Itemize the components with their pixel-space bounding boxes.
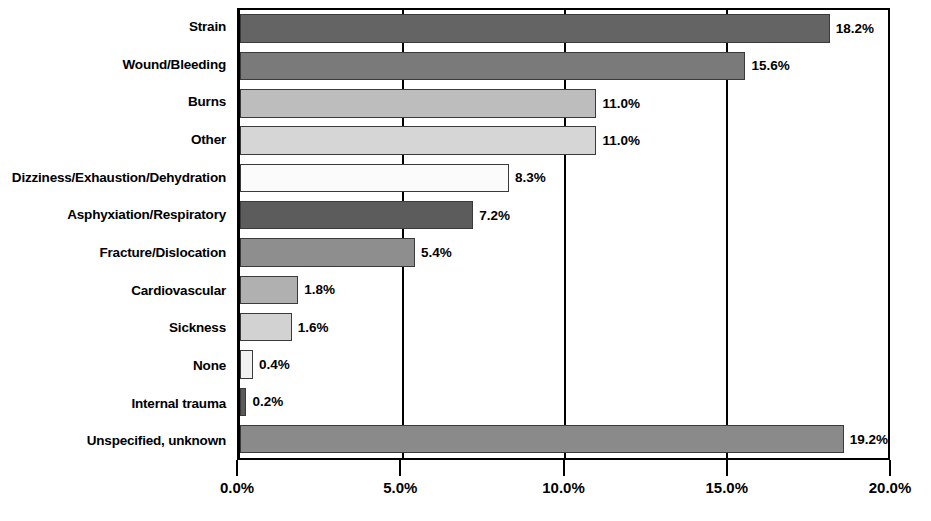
category-label: Asphyxiation/Respiratory (0, 196, 232, 234)
axis-tick (726, 460, 728, 476)
category-label-text: Burns (188, 95, 226, 109)
bar (240, 89, 596, 117)
bar (240, 164, 509, 192)
bar-value-label: 0.2% (252, 395, 283, 409)
axis-tick (563, 460, 565, 476)
bar-value-label: 7.2% (479, 209, 510, 223)
category-label-text: Fracture/Dislocation (99, 246, 226, 260)
bar (240, 238, 415, 266)
bar-value-label: 8.3% (515, 171, 546, 185)
category-label: Other (0, 121, 232, 159)
category-label: None (0, 347, 232, 385)
axis-tick-label: 10.0% (542, 480, 585, 495)
bar (240, 126, 596, 154)
category-label-text: Wound/Bleeding (123, 58, 226, 72)
bar-row: 18.2% (240, 10, 888, 47)
category-label: Wound/Bleeding (0, 46, 232, 84)
bar-row: 0.4% (240, 346, 888, 383)
category-label: Unspecified, unknown (0, 422, 232, 460)
value-axis: 0.0%5.0%10.0%15.0%20.0% (237, 460, 890, 518)
category-label-text: None (193, 359, 226, 373)
bar-value-label: 1.6% (298, 321, 329, 335)
category-label: Dizziness/Exhaustion/Dehydration (0, 159, 232, 197)
bar (240, 313, 292, 341)
category-label-text: Sickness (169, 321, 226, 335)
bar-row: 8.3% (240, 159, 888, 196)
bar (240, 425, 844, 453)
axis-tick-label: 15.0% (705, 480, 748, 495)
plot-area: 18.2% 15.6% 11.0% 11.0% 8.3% 7.2% 5.4% 1… (237, 8, 890, 460)
bar (240, 201, 473, 229)
axis-tick-label: 20.0% (869, 480, 912, 495)
category-label: Burns (0, 83, 232, 121)
bar-series: 18.2% 15.6% 11.0% 11.0% 8.3% 7.2% 5.4% 1… (240, 10, 888, 458)
axis-tick (236, 460, 238, 476)
bar (240, 52, 745, 80)
category-label: Cardiovascular (0, 272, 232, 310)
bar-row: 0.2% (240, 383, 888, 420)
bar-value-label: 11.0% (602, 134, 640, 148)
category-label-text: Cardiovascular (131, 284, 226, 298)
bar-chart: Strain Wound/Bleeding Burns Other Dizzin… (0, 0, 931, 521)
bar-row: 5.4% (240, 234, 888, 271)
category-label: Strain (0, 8, 232, 46)
category-label: Fracture/Dislocation (0, 234, 232, 272)
axis-tick-label: 5.0% (383, 480, 417, 495)
axis-tick (399, 460, 401, 476)
axis-tick-label: 0.0% (220, 480, 254, 495)
bar-value-label: 18.2% (836, 22, 874, 36)
category-label-text: Internal trauma (131, 397, 226, 411)
category-label-text: Strain (189, 20, 226, 34)
bar (240, 388, 246, 416)
bar-row: 19.2% (240, 421, 888, 458)
bar-row: 7.2% (240, 197, 888, 234)
bar (240, 14, 830, 42)
category-label-text: Asphyxiation/Respiratory (67, 208, 226, 222)
category-axis: Strain Wound/Bleeding Burns Other Dizzin… (0, 8, 232, 460)
bar-value-label: 19.2% (850, 433, 888, 447)
bar-row: 1.8% (240, 271, 888, 308)
bar-value-label: 1.8% (304, 283, 335, 297)
bar-row: 11.0% (240, 85, 888, 122)
category-label: Internal trauma (0, 385, 232, 423)
bar-row: 11.0% (240, 122, 888, 159)
bar-value-label: 15.6% (751, 59, 789, 73)
bar-row: 1.6% (240, 309, 888, 346)
category-label: Sickness (0, 309, 232, 347)
bar-value-label: 11.0% (602, 97, 640, 111)
bar (240, 350, 253, 378)
bar (240, 276, 298, 304)
bar-value-label: 0.4% (259, 358, 290, 372)
axis-tick (889, 460, 891, 476)
category-label-text: Unspecified, unknown (87, 434, 226, 448)
category-label-text: Other (191, 133, 226, 147)
bar-value-label: 5.4% (421, 246, 452, 260)
category-label-text: Dizziness/Exhaustion/Dehydration (12, 171, 226, 185)
bar-row: 15.6% (240, 47, 888, 84)
